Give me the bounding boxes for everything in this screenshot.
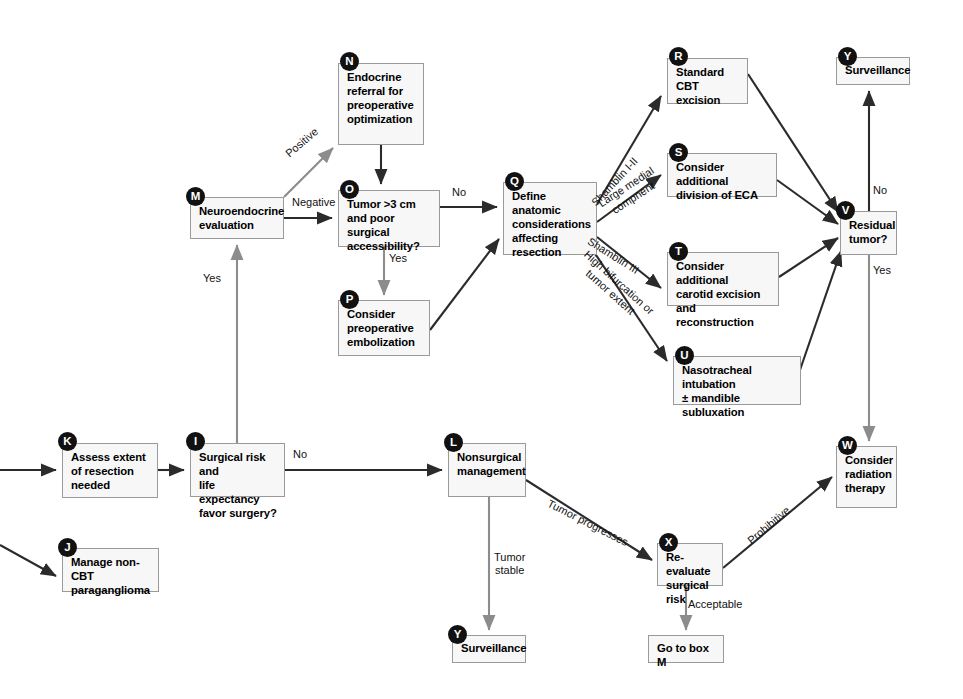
edge-t-to-v [779, 238, 838, 277]
node-U[interactable]: Nasotracheal intubation ± mandible sublu… [673, 356, 801, 405]
badge-R: R [669, 47, 688, 66]
badge-V: V [836, 201, 855, 220]
edge-label-negative: Negative [292, 196, 335, 209]
node-N[interactable]: Endocrine referral for preoperative opti… [338, 63, 424, 145]
badge-T: T [669, 242, 688, 261]
node-go-to-box-m-label: Go to box M [657, 641, 716, 669]
node-U-label: Nasotracheal intubation ± mandible sublu… [682, 363, 793, 419]
node-Y-bottom-label: Surveillance [461, 641, 518, 655]
badge-U: U [675, 346, 694, 365]
node-K[interactable]: Assess extent of resection needed [62, 443, 158, 498]
node-J-label: Manage non-CBT paraganglioma [71, 555, 151, 597]
node-R-label: Standard CBT excision [676, 65, 740, 107]
edge-label-tumor-progresses: Tumor progresses [545, 497, 630, 549]
node-T-label: Consider additional carotid excision and… [676, 259, 771, 330]
node-O-label: Tumor >3 cm and poor surgical accessibil… [347, 197, 432, 253]
badge-W: W [838, 436, 857, 455]
edge-label-yes-o-to-p: Yes [389, 252, 407, 265]
node-T[interactable]: Consider additional carotid excision and… [667, 252, 779, 306]
edge-u-to-v [800, 251, 841, 370]
badge-X: X [659, 533, 678, 552]
node-S-label: Consider additional division of ECA [676, 160, 769, 202]
badge-M: M [186, 187, 205, 206]
node-L[interactable]: Nonsurgical management [448, 443, 526, 497]
badge-N: N [340, 52, 359, 71]
badge-J: J [58, 538, 77, 557]
node-Q-label: Define anatomic considerations affecting… [512, 189, 589, 260]
badge-P: P [340, 290, 359, 309]
flowchart-canvas: Assess extent of resection needed K Mana… [0, 0, 963, 699]
edge-label-tumor-stable: Tumor stable [494, 551, 525, 577]
node-J[interactable]: Manage non-CBT paraganglioma [62, 548, 159, 592]
node-M-label: Neuroendocrine evaluation [199, 204, 276, 232]
edge-s-to-v [777, 180, 838, 224]
badge-O: O [340, 180, 359, 199]
badge-K: K [58, 432, 77, 451]
node-W-label: Consider radiation therapy [845, 453, 889, 495]
node-M[interactable]: Neuroendocrine evaluation [190, 197, 284, 239]
edge-label-positive: Positive [283, 125, 321, 160]
node-W[interactable]: Consider radiation therapy [836, 446, 897, 508]
edge-label-yes-v-to-w: Yes [873, 264, 891, 277]
node-I[interactable]: Surgical risk and life expectancy favor … [190, 443, 285, 497]
edge-in-to-j [0, 545, 56, 576]
node-N-label: Endocrine referral for preoperative opti… [347, 70, 416, 126]
badge-Q: Q [505, 172, 524, 191]
node-P-label: Consider preoperative embolization [347, 307, 422, 349]
badge-Y-top: Y [838, 47, 857, 66]
node-V-label: Residual tumor? [849, 218, 889, 246]
badge-S: S [669, 143, 688, 162]
edge-p-to-q [430, 239, 499, 330]
node-Y-top-label: Surveillance [845, 63, 902, 77]
edge-label-prohibitive: Prohibitive [745, 504, 793, 547]
badge-Y-bottom: Y [448, 625, 467, 644]
node-L-label: Nonsurgical management [457, 450, 518, 478]
edge-label-no-o-to-q: No [452, 186, 466, 199]
node-I-label: Surgical risk and life expectancy favor … [199, 450, 277, 521]
node-O[interactable]: Tumor >3 cm and poor surgical accessibil… [338, 190, 440, 247]
edge-label-acceptable: Acceptable [688, 598, 742, 611]
node-K-label: Assess extent of resection needed [71, 450, 150, 492]
edge-label-no-i-to-l: No [293, 448, 307, 461]
node-go-to-box-m[interactable]: Go to box M [648, 635, 724, 663]
edge-label-yes-to-m: Yes [203, 272, 221, 285]
badge-I: I [186, 432, 205, 451]
edge-label-no-v-to-y: No [873, 184, 887, 197]
node-Q[interactable]: Define anatomic considerations affecting… [503, 182, 597, 255]
badge-L: L [444, 433, 463, 452]
